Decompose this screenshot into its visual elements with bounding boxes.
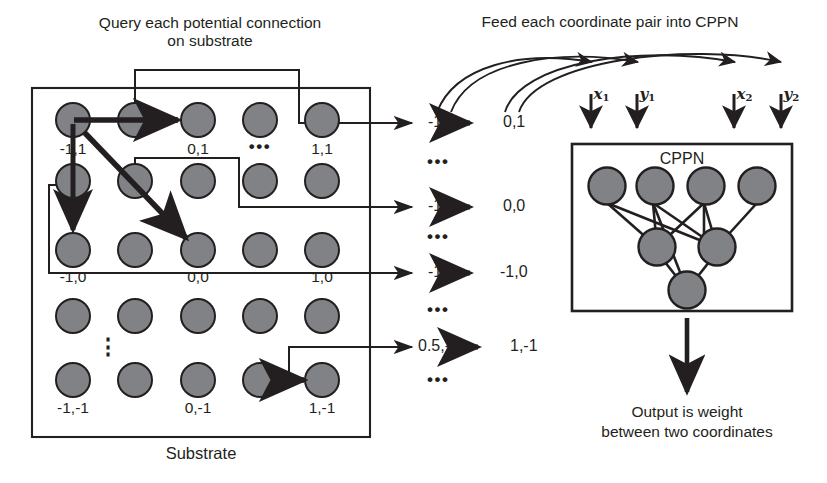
substrate-node: [243, 103, 277, 137]
substrate-node: [243, 233, 277, 267]
cppn-input-label-x2: x2: [714, 68, 754, 121]
substrate-node: [181, 299, 215, 333]
cppn-output-label: Output is weight between two coordinates: [587, 402, 787, 442]
cppn-input-node: [739, 168, 776, 205]
pair-target-1: 0,1: [503, 113, 525, 132]
pair-target-2: 0,0: [503, 197, 525, 216]
pair-separator-1: •••: [427, 152, 449, 172]
cppn-input-node: [637, 168, 674, 205]
substrate-coord-label: -1,1: [43, 140, 103, 158]
cppn-input-sub: 2: [745, 92, 752, 103]
cppn-node-group: [589, 168, 776, 309]
cppn-input-sub: 1: [648, 92, 655, 103]
substrate-node: [243, 299, 277, 333]
substrate-coord-label: 1,1: [292, 140, 352, 158]
substrate-node: [305, 233, 339, 267]
substrate-node: [305, 103, 339, 137]
substrate-coord-label: 1,-1: [292, 399, 352, 417]
substrate-node: [56, 363, 90, 397]
substrate-node: [305, 164, 339, 198]
substrate-node: [243, 164, 277, 198]
pair-target-4: 1,-1: [510, 337, 538, 356]
substrate-node: [305, 363, 339, 397]
pair-source-4: 0.5,-1: [418, 337, 459, 356]
substrate-node: [305, 299, 339, 333]
substrate-coord-label: -1,0: [43, 268, 103, 286]
substrate-node: [118, 363, 152, 397]
cppn-input-sub: 2: [792, 92, 799, 103]
pair-separator-4: •••: [427, 370, 449, 390]
substrate-node: [181, 233, 215, 267]
cppn-input-base: y: [640, 85, 649, 103]
cppn-hidden-node: [699, 229, 736, 266]
cppn-input-label-y2: y2: [761, 68, 801, 121]
substrate-ellipsis-vertical: ⋮: [93, 334, 123, 360]
pair-separator-2: •••: [427, 227, 449, 247]
cppn-output-node: [669, 272, 706, 309]
substrate-node: [56, 299, 90, 333]
substrate-coord-label: 1,0: [292, 268, 352, 286]
cppn-input-label-y1: y1: [617, 68, 657, 121]
substrate-node: [181, 363, 215, 397]
substrate-node: [181, 103, 215, 137]
cppn-input-node: [589, 168, 626, 205]
substrate-ellipsis-horizontal: •••: [236, 137, 284, 157]
substrate-node: [118, 233, 152, 267]
query-route-3: [49, 185, 412, 273]
cppn-title: CPPN: [632, 150, 732, 169]
substrate-label: Substrate: [141, 444, 261, 463]
cppn-hidden-node: [639, 229, 676, 266]
substrate-coord-label: 0,0: [168, 268, 228, 286]
cppn-input-label-x1: x1: [571, 68, 611, 121]
substrate-node: [181, 164, 215, 198]
diagram-canvas: Query each potential connection on subst…: [0, 0, 827, 483]
substrate-node: [118, 299, 152, 333]
substrate-coord-label: -1,-1: [43, 399, 103, 417]
cppn-input-base: y: [784, 85, 793, 103]
substrate-node: [243, 363, 277, 397]
pair-separator-3: •••: [427, 300, 449, 320]
pair-target-3: -1,0: [500, 263, 528, 282]
pair-source-2: -1,1: [428, 197, 456, 216]
cppn-input-sub: 1: [602, 92, 609, 103]
pair-source-3: -1,1: [428, 263, 456, 282]
cppn-input-node: [688, 168, 725, 205]
substrate-coord-label: 0,1: [168, 140, 228, 158]
substrate-node: [56, 233, 90, 267]
substrate-coord-label: 0,-1: [168, 399, 228, 417]
pair-source-1: -1,1: [428, 113, 456, 132]
